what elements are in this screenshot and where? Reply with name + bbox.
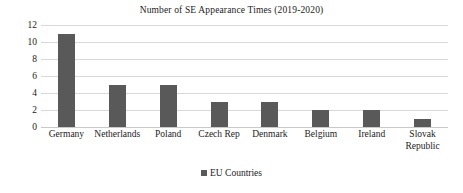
legend-square-marker-icon <box>201 170 207 176</box>
bar <box>211 102 228 128</box>
bar <box>414 119 431 128</box>
y-tick-label: 10 <box>0 37 37 47</box>
y-tick-label: 12 <box>0 20 37 30</box>
y-tick-label: 6 <box>0 71 37 81</box>
bar <box>312 110 329 127</box>
x-tick-label: Denmark <box>245 129 296 141</box>
chart-title: Number of SE Appearance Times (2019-2020… <box>0 5 463 15</box>
x-tick-label: Poland <box>143 129 194 141</box>
bar <box>261 102 278 128</box>
y-tick-label: 0 <box>0 122 37 132</box>
y-tick-label: 2 <box>0 105 37 115</box>
legend-label: EU Countries <box>210 168 262 178</box>
bar <box>109 85 126 128</box>
y-axis: 024681012 <box>0 25 37 127</box>
x-axis: GermanyNetherlandsPolandCzech RepDenmark… <box>41 129 448 163</box>
y-tick-label: 4 <box>0 88 37 98</box>
bar <box>363 110 380 127</box>
x-tick-label: Germany <box>41 129 92 141</box>
x-tick-label: Czech Rep <box>194 129 245 141</box>
bar <box>58 34 75 128</box>
x-tick-label: SlovakRepublic <box>397 129 448 152</box>
x-tick-label: Ireland <box>346 129 397 141</box>
y-tick-label: 8 <box>0 54 37 64</box>
x-tick-label: Belgium <box>295 129 346 141</box>
chart-legend: EU Countries <box>0 168 463 178</box>
bar <box>160 85 177 128</box>
x-tick-label: Netherlands <box>92 129 143 141</box>
bar-chart-figure: Number of SE Appearance Times (2019-2020… <box>0 0 463 193</box>
axis-baseline <box>41 127 448 128</box>
legend-item-eu-countries: EU Countries <box>201 168 262 178</box>
bars-layer <box>41 25 448 127</box>
